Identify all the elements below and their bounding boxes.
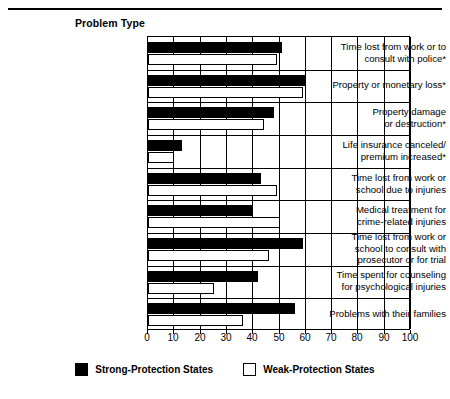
bar-strong-7 [148, 271, 258, 282]
category-separator [148, 135, 409, 136]
x-tick-mark-100 [410, 330, 411, 334]
x-tick-mark-70 [331, 330, 332, 334]
bar-weak-7 [148, 283, 214, 294]
x-tick-mark-10 [173, 330, 174, 334]
x-tick-mark-20 [200, 330, 201, 334]
chart-legend: Strong-Protection States Weak-Protection… [0, 363, 450, 376]
legend-swatch-icon-weak [243, 363, 256, 376]
y-axis-title: Problem Type [75, 17, 145, 29]
legend-item-weak-protection-states: Weak-Protection States [243, 363, 375, 376]
bar-weak-5 [148, 217, 280, 228]
category-separator [148, 200, 409, 201]
bar-weak-0 [148, 54, 277, 65]
category-label-3: Life insurance canceled/ premium increas… [306, 139, 450, 162]
x-tick-mark-30 [226, 330, 227, 334]
bar-weak-8 [148, 315, 243, 326]
bar-weak-1 [148, 87, 303, 98]
bar-strong-4 [148, 173, 261, 184]
bar-weak-4 [148, 185, 277, 196]
category-label-7: Time spent for counseling for psychologi… [306, 269, 450, 292]
category-label-2: Property damage or destruction* [306, 106, 450, 129]
category-separator [148, 102, 409, 103]
category-label-6: Time lost from work or school to consult… [306, 231, 450, 266]
x-tick-mark-60 [305, 330, 306, 334]
clipped-caption-text [18, 0, 438, 3]
category-label-1: Property or monetary loss* [306, 79, 450, 91]
x-tick-mark-40 [252, 330, 253, 334]
category-separator [148, 266, 409, 267]
bar-strong-5 [148, 205, 253, 216]
category-label-5: Medical treatment for crime-related inju… [306, 204, 450, 227]
legend-label-weak: Weak-Protection States [263, 364, 375, 375]
category-separator [148, 298, 409, 299]
bar-strong-8 [148, 303, 295, 314]
x-tick-mark-90 [384, 330, 385, 334]
bar-strong-6 [148, 238, 303, 249]
bar-strong-0 [148, 42, 282, 53]
legend-item-strong-protection-states: Strong-Protection States [75, 363, 213, 376]
x-tick-mark-80 [357, 330, 358, 334]
category-separator [148, 70, 409, 71]
legend-swatch-icon-strong [75, 363, 88, 376]
chart-root: Problem Type Time lost from work or to c… [0, 0, 450, 399]
category-separator [148, 168, 409, 169]
x-tick-mark-0 [147, 330, 148, 334]
bar-strong-2 [148, 107, 274, 118]
bar-weak-3 [148, 152, 174, 163]
category-label-0: Time lost from work or to consult with p… [306, 41, 450, 64]
bar-weak-2 [148, 119, 264, 130]
category-label-4: Time lost from work or school due to inj… [306, 172, 450, 195]
top-horizontal-rule [8, 8, 442, 10]
bar-strong-3 [148, 140, 182, 151]
x-tick-mark-50 [279, 330, 280, 334]
bar-weak-6 [148, 250, 269, 261]
legend-label-strong: Strong-Protection States [95, 364, 213, 375]
bar-strong-1 [148, 75, 306, 86]
category-label-8: Problems with their families [306, 308, 450, 320]
